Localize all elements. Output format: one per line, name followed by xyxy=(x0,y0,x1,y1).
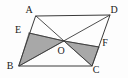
vertex-label-d: D xyxy=(110,4,117,15)
point-label-o: O xyxy=(57,45,64,56)
geometry-canvas: A B C D E F O xyxy=(0,0,128,78)
point-label-e: E xyxy=(15,24,21,35)
point-label-f: F xyxy=(102,37,108,48)
vertex-label-a: A xyxy=(25,4,33,15)
vertex-label-b: B xyxy=(7,60,14,71)
geometry-figure: A B C D E F O xyxy=(0,0,128,78)
vertex-label-c: C xyxy=(93,64,100,75)
